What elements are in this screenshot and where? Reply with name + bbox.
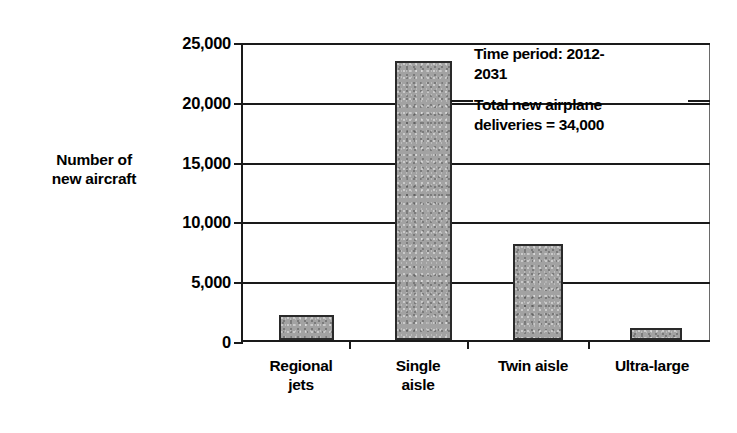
y-axis-title: Number of new aircraft <box>14 150 174 188</box>
annotation-time-period-line-1: Time period: 2012- <box>474 44 706 64</box>
annotation-time-period: Time period: 2012- 2031 <box>474 44 706 84</box>
y-tick-label-25000: 25,000 <box>182 34 231 53</box>
y-tick-label-5000: 5,000 <box>191 273 231 292</box>
annotation-total-deliveries: Total new airplane deliveries = 34,000 <box>474 95 706 135</box>
x-category-label-line-2: jets <box>241 375 361 394</box>
y-tick-label-0: 0 <box>222 333 231 352</box>
x-tick-1 <box>349 340 351 349</box>
y-tick-25000 <box>234 43 243 45</box>
x-tick-3 <box>588 340 590 349</box>
x-category-label-regional-jets: Regional jets <box>241 356 361 394</box>
y-tick-label-20000: 20,000 <box>182 94 231 113</box>
y-tick-0 <box>234 342 243 344</box>
y-tick-10000 <box>234 222 243 224</box>
bar-single-aisle[interactable] <box>395 61 452 340</box>
chart-annotation: Time period: 2012- 2031 Total new airpla… <box>474 44 706 135</box>
x-category-label-line-1: Twin aisle <box>478 356 588 375</box>
gridline-20000-right-stub <box>688 100 710 102</box>
y-tick-label-10000: 10,000 <box>182 213 231 232</box>
y-tick-5000 <box>234 282 243 284</box>
y-axis-title-line-2: new aircraft <box>14 169 174 188</box>
gridline-10000 <box>243 222 710 224</box>
gridline-5000 <box>243 282 710 284</box>
y-tick-15000 <box>234 163 243 165</box>
x-category-label-line-1: Single <box>358 356 478 375</box>
x-category-label-twin-aisle: Twin aisle <box>478 356 588 375</box>
x-category-label-line-2: aisle <box>358 375 478 394</box>
gridline-15000 <box>243 163 710 165</box>
bar-ultra-large[interactable] <box>630 328 682 340</box>
bar-regional-jets[interactable] <box>279 315 334 340</box>
x-category-label-ultra-large: Ultra-large <box>592 356 712 375</box>
y-tick-20000 <box>234 103 243 105</box>
bar-twin-aisle[interactable] <box>513 244 563 340</box>
plot-right-edge <box>709 43 710 340</box>
x-category-label-line-1: Regional <box>241 356 361 375</box>
x-tick-2 <box>467 340 469 349</box>
annotation-total-line-2: deliveries = 34,000 <box>474 115 706 135</box>
bar-chart-figure: Number of new aircraft 25,000 20,000 15,… <box>0 0 737 433</box>
annotation-time-period-line-2: 2031 <box>474 64 706 84</box>
x-category-label-single-aisle: Single aisle <box>358 356 478 394</box>
x-category-label-line-1: Ultra-large <box>592 356 712 375</box>
y-tick-label-15000: 15,000 <box>182 154 231 173</box>
annotation-leader-line <box>451 100 473 102</box>
y-axis-title-line-1: Number of <box>14 150 174 169</box>
annotation-total-line-1: Total new airplane <box>474 95 706 115</box>
